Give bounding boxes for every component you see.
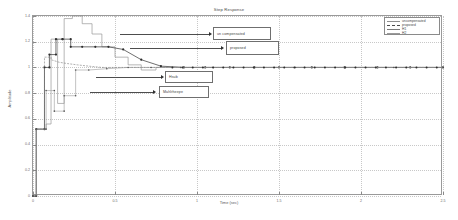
arrow-h1 — [161, 75, 164, 79]
data-point-marker — [442, 67, 444, 69]
data-point-marker — [192, 66, 194, 68]
data-point-marker — [75, 69, 77, 71]
tick-label-x: 0 — [23, 199, 43, 203]
tick-label-y: 0 — [17, 194, 30, 198]
gridline-y — [33, 196, 441, 197]
data-point-marker — [324, 66, 326, 68]
data-point-marker — [365, 66, 367, 68]
legend-key-uncompensated-icon — [387, 21, 400, 22]
data-point-marker — [55, 53, 57, 55]
data-point-marker — [393, 67, 395, 69]
data-point-marker — [344, 66, 346, 68]
data-point-marker — [395, 66, 397, 68]
gridline-x — [443, 16, 444, 194]
data-point-marker — [45, 128, 47, 130]
chart-legend: uncompensated proposed H1 H2 — [384, 17, 440, 35]
data-point-marker — [122, 48, 124, 50]
series-line-h2 — [33, 67, 443, 196]
data-point-marker — [160, 65, 162, 67]
data-point-marker — [140, 59, 142, 61]
callout-uncompensated: un compensated — [213, 27, 271, 40]
tick-label-y: 1.4 — [17, 14, 30, 18]
callout-proposed-label: proposed — [227, 46, 246, 50]
data-point-marker — [48, 53, 50, 55]
data-point-marker — [150, 67, 152, 69]
data-point-marker — [106, 68, 108, 70]
leader-line-h2 — [90, 92, 154, 93]
tick-mark-x — [443, 192, 444, 195]
tick-label-y: 1.2 — [17, 39, 30, 43]
data-point-marker — [293, 66, 295, 68]
data-point-marker — [35, 128, 37, 130]
data-point-marker — [48, 66, 50, 68]
arrow-uncompensated — [209, 32, 212, 36]
data-point-marker — [70, 46, 72, 48]
data-point-marker — [273, 66, 275, 68]
chart-title: Step Response — [0, 7, 458, 12]
tick-label-y: 0.6 — [17, 116, 30, 120]
data-point-marker — [334, 66, 336, 68]
data-point-marker — [54, 90, 56, 92]
data-point-marker — [253, 66, 255, 68]
legend-key-proposed-icon — [387, 25, 400, 26]
data-point-marker — [232, 66, 234, 68]
callout-h2: Mahlrheepe — [159, 86, 209, 98]
data-point-marker — [94, 46, 96, 48]
callout-h2-label: Mahlrheepe — [160, 90, 183, 94]
data-point-marker — [88, 69, 90, 71]
tick-label-x: 1 — [187, 199, 207, 203]
data-point-marker — [45, 90, 47, 92]
data-point-marker — [54, 110, 56, 112]
data-point-marker — [354, 66, 356, 68]
data-point-marker — [182, 66, 184, 68]
leader-line-h1 — [96, 77, 162, 78]
series-line-h1 — [33, 57, 443, 196]
y-axis-label: Amplitude — [7, 79, 12, 119]
tick-label-y: 1 — [17, 65, 30, 69]
arrow-proposed — [221, 46, 224, 50]
tick-label-x: 1.5 — [269, 199, 289, 203]
data-point-marker — [55, 38, 57, 40]
data-point-marker — [304, 66, 306, 68]
tick-label-y: 0.4 — [17, 142, 30, 146]
data-point-marker — [314, 66, 316, 68]
data-point-marker — [385, 66, 387, 68]
leader-line-uncompensated — [120, 34, 210, 35]
tick-label-y: 0.8 — [17, 91, 30, 95]
arrow-h2 — [153, 90, 156, 94]
leader-line-proposed — [130, 48, 222, 49]
data-point-marker — [415, 66, 417, 68]
data-point-marker — [127, 67, 129, 69]
data-point-marker — [436, 66, 438, 68]
step-response-figure: Step Response Amplitude Time (sec) 00.51… — [0, 0, 458, 220]
callout-uncompensated-label: un compensated — [214, 32, 245, 36]
legend-key-h1-icon — [387, 29, 400, 30]
data-point-marker — [107, 46, 109, 48]
data-point-marker — [212, 66, 214, 68]
data-point-marker — [426, 66, 428, 68]
legend-key-h2-icon — [387, 33, 400, 34]
legend-item-h2: H2 — [387, 31, 437, 35]
tick-label-x: 2.5 — [433, 199, 453, 203]
data-point-marker — [405, 66, 407, 68]
data-point-marker — [222, 66, 224, 68]
data-point-marker — [375, 66, 377, 68]
series-line-proposed — [33, 39, 443, 196]
callout-h1: Hsub — [165, 71, 213, 83]
data-point-marker — [263, 66, 265, 68]
data-point-marker — [75, 95, 77, 97]
callout-h1-label: Hsub — [166, 75, 178, 79]
data-point-marker — [35, 195, 37, 197]
legend-label-h2: H2 — [402, 31, 406, 35]
data-point-marker — [171, 66, 173, 68]
x-axis-label: Time (sec) — [0, 200, 458, 205]
data-point-marker — [202, 66, 204, 68]
data-point-marker — [63, 110, 65, 112]
data-point-marker — [81, 46, 83, 48]
data-point-marker — [180, 67, 182, 69]
data-point-marker — [283, 66, 285, 68]
data-point-marker — [70, 38, 72, 40]
tick-label-y: 0.2 — [17, 168, 30, 172]
tick-label-x: 2 — [351, 199, 371, 203]
data-point-marker — [243, 66, 245, 68]
